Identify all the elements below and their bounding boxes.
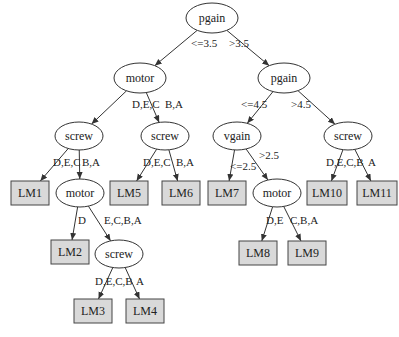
node-label: LM2 [58,245,82,259]
edge-label: D,E,C [53,156,81,168]
leaf-node: LM9 [288,241,326,265]
edge-label: <=2.5 [230,160,257,172]
leaf-node: LM6 [162,181,200,205]
edge-arrow [79,150,80,179]
edge-label: D,E,C,B [326,156,364,168]
decision-tree-diagram: <=3.5>3.5D,E,CB,A<=4.5>4.5D,E,CB,AD,E,CB… [0,0,399,337]
decision-node: screw [95,240,143,268]
node-label: screw [334,129,362,143]
edge-label: D,E,C [143,156,171,168]
leaf-node: LM3 [74,299,112,323]
node-label: LM3 [81,304,105,318]
leaf-node: LM4 [126,299,164,323]
decision-node: vgain [213,122,261,150]
leaf-node: LM2 [51,240,89,264]
edge-label: D [78,214,86,226]
edge-label: >2.5 [259,149,279,161]
decision-node: pgain [258,63,310,93]
edge-label: C,B,A [290,214,318,226]
node-label: vgain [224,129,251,143]
decision-node: screw [141,122,189,150]
decision-node: pgain [186,3,238,33]
decision-node: motor [114,63,166,93]
tree-svg: <=3.5>3.5D,E,CB,A<=4.5>4.5D,E,CB,AD,E,CB… [0,0,399,337]
edge-label: D,E,C [132,98,160,110]
edge-label: D,E [266,214,284,226]
node-label: LM1 [18,186,42,200]
edge-label: A [136,275,144,287]
leaf-node: LM11 [357,181,397,205]
edge-label: >3.5 [229,37,249,49]
leaf-node: LM1 [11,181,49,205]
edge-label: <=3.5 [191,37,218,49]
edge-label: >4.5 [291,98,311,110]
edge-label: B,A [176,156,194,168]
edge-label: B,A [82,156,100,168]
node-label: pgain [271,71,298,85]
node-label: LM6 [169,186,193,200]
node-label: LM9 [295,246,319,260]
node-label: screw [105,247,133,261]
node-label: LM4 [133,304,157,318]
node-label: motor [263,186,292,200]
node-label: LM11 [362,186,392,200]
node-label: screw [151,129,179,143]
edge-label: D,E,C,B [95,275,133,287]
decision-node: motor [56,179,104,207]
decision-node: motor [253,179,301,207]
decision-node: screw [55,122,103,150]
node-label: LM5 [117,186,141,200]
edge-label: E,C,B,A [104,214,142,226]
node-label: LM7 [215,186,239,200]
node-label: LM10 [312,186,342,200]
edge-arrow [92,91,127,124]
node-label: motor [66,186,95,200]
edge-label: <=4.5 [241,98,268,110]
node-label: pgain [199,11,226,25]
edge-label: A [368,156,376,168]
node-label: motor [126,71,155,85]
node-label: screw [65,129,93,143]
node-label: LM8 [246,246,270,260]
edge-label: B,A [165,98,183,110]
leaf-node: LM10 [307,181,347,205]
decision-node: screw [324,122,372,150]
edge-arrow [72,207,78,240]
leaf-node: LM5 [110,181,148,205]
leaf-node: LM7 [208,181,246,205]
leaf-node: LM8 [239,241,277,265]
